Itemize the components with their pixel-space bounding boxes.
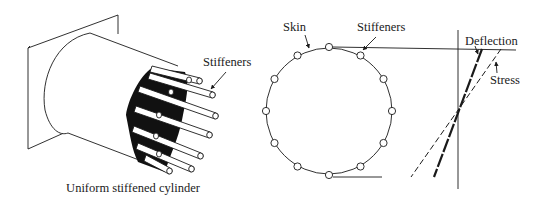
figure-caption: Uniform stiffened cylinder: [66, 181, 201, 195]
stiffener-circles: [262, 43, 395, 178]
stress-label: Stress: [490, 73, 520, 87]
stiffeners-label-left: Stiffeners: [203, 55, 252, 69]
skin-pointer: [305, 35, 309, 48]
stiffeners-label-section: Stiffeners: [357, 20, 406, 34]
stiffeners-pointer: [211, 72, 226, 89]
skin-circle: [266, 48, 392, 174]
skin-label: Skin: [283, 20, 307, 34]
stress-pointer: [496, 62, 497, 73]
stress-line: [411, 49, 501, 177]
deflection-label: Deflection: [465, 34, 519, 48]
stiffened-cylinder-figure: [28, 15, 226, 174]
diagram: Stiffeners Uniform stiffened cylinder Sk…: [0, 0, 542, 205]
cross-section-figure: [262, 35, 516, 179]
distribution-plot: [411, 30, 501, 189]
